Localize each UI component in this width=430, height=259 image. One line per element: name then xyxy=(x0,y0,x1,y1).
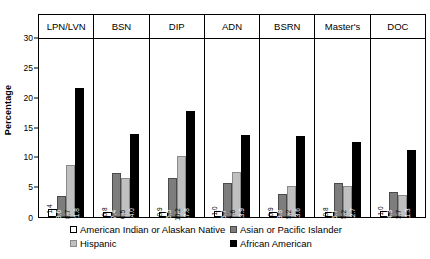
bar-group: 0.96.510.217.8 xyxy=(150,39,204,217)
bar-value-label: 0.8 xyxy=(323,208,330,217)
chart-legend: American Indian or Alaskan NativeHispani… xyxy=(70,224,420,256)
panel-master-s: 0.85.75.212.7 xyxy=(315,39,370,217)
bar: 13.6 xyxy=(296,136,305,217)
bar: 11.3 xyxy=(407,150,416,217)
bar: 21.8 xyxy=(75,88,84,217)
y-tick-label-5: 5 xyxy=(28,182,33,192)
bar-value-label: 0.9 xyxy=(157,207,164,216)
legend-swatch-icon xyxy=(230,240,237,247)
panel-header-bsrn: BSRN xyxy=(260,15,315,38)
bar-value-label: 1.0 xyxy=(212,207,219,216)
legend-item: Asian or Pacific Islander xyxy=(230,224,342,235)
panel-header-adn: ADN xyxy=(205,15,260,38)
panel-bsn: 0.87.46.514.0 xyxy=(94,39,149,217)
bar-value-label: 3.7 xyxy=(396,209,403,218)
y-tick-label-20: 20 xyxy=(24,93,33,103)
legend-label: Asian or Pacific Islander xyxy=(240,224,342,235)
bar-value-label: 4.3 xyxy=(387,209,394,218)
bar-value-label: 17.8 xyxy=(184,208,191,221)
bar-value-label: 3.8 xyxy=(276,209,283,218)
panel-header-lpn-lvn: LPN/LVN xyxy=(39,15,94,38)
bar-value-label: 7.6 xyxy=(230,209,237,218)
bar-value-label: 13.9 xyxy=(239,208,246,221)
bar: 13.9 xyxy=(241,135,250,217)
bar-value-label: 0.9 xyxy=(267,207,274,216)
legend-swatch-icon xyxy=(70,226,77,233)
bar-value-label: 7.4 xyxy=(110,209,117,218)
y-tick-label-25: 25 xyxy=(24,63,33,73)
bar: 12.7 xyxy=(352,142,361,217)
bar-value-label: 1.0 xyxy=(378,207,385,216)
legend-item: American Indian or Alaskan Native xyxy=(70,224,225,235)
legend-label: African American xyxy=(240,238,312,249)
bar-value-label: 21.8 xyxy=(73,208,80,221)
legend-swatch-icon xyxy=(230,226,237,233)
bar-chart-figure: Percentage 51015202530 0 LPN/LVNBSNDIPAD… xyxy=(0,0,430,259)
panel-doc: 1.04.33.711.3 xyxy=(371,39,425,217)
legend-label: American Indian or Alaskan Native xyxy=(80,224,225,235)
bar-group: 0.87.46.514.0 xyxy=(94,39,148,217)
bar: 17.8 xyxy=(186,111,195,217)
panel-adn: 1.05.77.613.9 xyxy=(205,39,260,217)
bar-group: 0.93.85.213.6 xyxy=(260,39,314,217)
y-tick-label-0: 0 xyxy=(16,213,38,223)
panel-dip: 0.96.510.217.8 xyxy=(150,39,205,217)
panel-header-bsn: BSN xyxy=(94,15,149,38)
bar-value-label: 12.7 xyxy=(350,208,357,221)
bar-value-label: 5.7 xyxy=(221,209,228,218)
bar-value-label: 11.3 xyxy=(405,208,412,220)
legend-item: African American xyxy=(230,238,312,249)
bar-group: 1.04.33.711.3 xyxy=(371,39,425,217)
legend-label: Hispanic xyxy=(80,238,116,249)
plot-area: LPN/LVNBSNDIPADNBSRNMaster'sDOC 1.43.68.… xyxy=(38,14,426,218)
bar-value-label: 8.7 xyxy=(64,209,71,218)
bar-group: 0.85.75.212.7 xyxy=(315,39,369,217)
panel-bsrn: 0.93.85.213.6 xyxy=(260,39,315,217)
panel-header-doc: DOC xyxy=(371,15,425,38)
bar-value-label: 6.5 xyxy=(119,209,126,218)
panel-header-master-s: Master's xyxy=(315,15,370,38)
bar: 14.0 xyxy=(130,134,139,217)
y-axis: 51015202530 xyxy=(16,0,38,219)
legend-item: Hispanic xyxy=(70,238,116,249)
legend-swatch-icon xyxy=(70,240,77,247)
bar-value-label: 0.8 xyxy=(101,208,108,217)
bar-value-label: 10.2 xyxy=(175,208,182,221)
bar-group: 1.43.68.721.8 xyxy=(39,39,93,217)
panel-header-dip: DIP xyxy=(150,15,205,38)
bar-value-label: 13.6 xyxy=(294,208,301,221)
panel-header-row: LPN/LVNBSNDIPADNBSRNMaster'sDOC xyxy=(39,15,425,39)
panel-body-row: 1.43.68.721.80.87.46.514.00.96.510.217.8… xyxy=(39,39,425,217)
y-tick-label-15: 15 xyxy=(24,123,33,133)
bar-value-label: 5.2 xyxy=(285,209,292,218)
bar-value-label: 14.0 xyxy=(128,208,135,221)
bar-value-label: 6.5 xyxy=(166,209,173,218)
bar-value-label: 1.4 xyxy=(46,204,53,213)
y-tick-label-10: 10 xyxy=(24,152,33,162)
bar-group: 1.05.77.613.9 xyxy=(205,39,259,217)
y-tick-label-30: 30 xyxy=(24,33,33,43)
bar-value-label: 5.7 xyxy=(332,209,339,218)
panel-lpn-lvn: 1.43.68.721.8 xyxy=(39,39,94,217)
y-axis-title-text: Percentage xyxy=(3,84,13,135)
bar-value-label: 3.6 xyxy=(55,209,62,218)
y-axis-title: Percentage xyxy=(0,0,16,219)
bar-value-label: 5.2 xyxy=(341,209,348,218)
